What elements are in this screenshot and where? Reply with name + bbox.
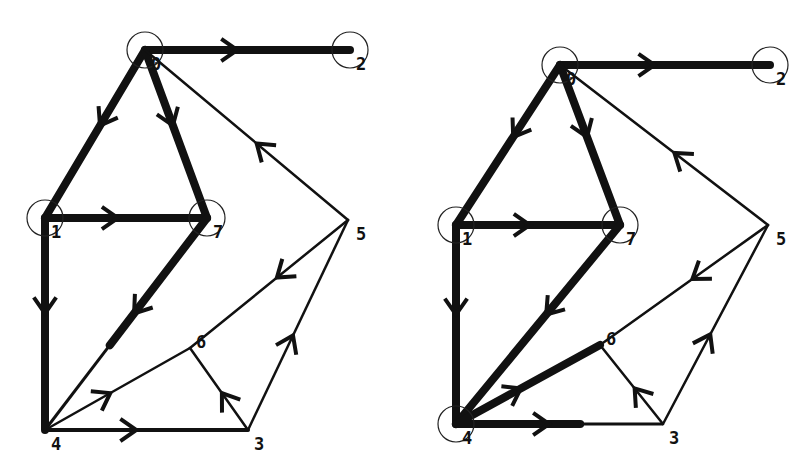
node-label: 3 [254,434,264,454]
edge-3-6 [190,348,248,430]
edge-4-6 [456,345,600,424]
edge-3-5 [248,220,348,430]
edge-1-4 [445,225,467,424]
edge-3-6 [600,345,663,424]
node-label: 1 [462,229,472,249]
edge-0-2 [560,54,770,76]
node-label: 5 [356,224,366,244]
arrow-icon [674,153,694,172]
arrow-icon [692,261,712,279]
edge-3-5 [663,225,768,424]
node-label: 7 [626,229,636,249]
node-label: 2 [776,69,786,89]
node-label: 0 [566,69,576,89]
node-6: 6 [606,329,616,349]
graph-diagram: 02175643 02175643 [0,0,812,475]
edge-4-6 [45,348,190,430]
node-label: 1 [51,222,61,242]
edge-4-3 [45,419,248,441]
node-3: 3 [669,428,679,448]
node-5: 5 [776,229,786,249]
node-6: 6 [196,332,206,352]
node-label: 4 [51,434,61,454]
node-3: 3 [254,434,264,454]
edge-1-7 [45,207,207,229]
edge-0-2 [145,39,350,61]
node-label: 3 [669,428,679,448]
node-label: 6 [196,332,206,352]
node-label: 2 [356,54,366,74]
edge-1-7 [456,214,620,236]
node-label: 7 [213,222,223,242]
node-label: 0 [151,54,161,74]
node-label: 5 [776,229,786,249]
arrow-icon [222,393,240,413]
right-graph: 02175643 [438,47,788,448]
node-label: 4 [462,428,472,448]
node-5: 5 [356,224,366,244]
node-4: 4 [51,434,61,454]
edge-7-4 [456,225,620,424]
edge-4-3 [456,413,663,435]
edge-0-1 [456,65,560,225]
edge-1-4 [34,218,56,430]
arrow-icon [91,391,110,410]
node-label: 6 [606,329,616,349]
edge-0-1 [45,50,145,218]
left-graph: 02175643 [27,32,368,454]
edge-7-4 [45,218,207,430]
